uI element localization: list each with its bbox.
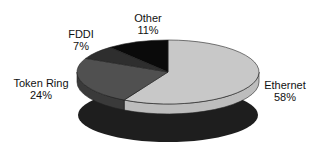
label-other: Other 11% xyxy=(128,12,168,36)
label-ethernet-name: Ethernet xyxy=(261,79,309,91)
label-token-ring: Token Ring 24% xyxy=(10,77,72,101)
label-fddi-pct: 7% xyxy=(64,40,98,52)
label-token-ring-name: Token Ring xyxy=(10,77,72,89)
label-token-ring-pct: 24% xyxy=(10,89,72,101)
label-other-name: Other xyxy=(128,12,168,24)
label-ethernet-pct: 58% xyxy=(261,91,309,103)
label-other-pct: 11% xyxy=(128,24,168,36)
pie-top xyxy=(77,40,259,104)
label-ethernet: Ethernet 58% xyxy=(261,79,309,103)
label-fddi: FDDI 7% xyxy=(64,28,98,52)
label-fddi-name: FDDI xyxy=(64,28,98,40)
